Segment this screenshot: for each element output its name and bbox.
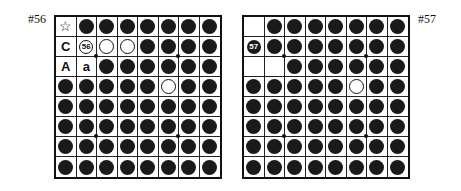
black-disc <box>390 19 405 34</box>
board-cell <box>56 157 77 177</box>
board-cell <box>265 77 286 97</box>
board-cell <box>285 137 306 157</box>
black-disc <box>349 39 364 54</box>
board-cell <box>285 77 306 97</box>
board-cell <box>200 117 221 137</box>
black-disc <box>308 139 323 154</box>
black-disc <box>79 119 94 134</box>
black-disc <box>390 160 405 175</box>
black-disc <box>120 99 135 114</box>
board-cell <box>77 17 98 37</box>
black-disc <box>328 19 343 34</box>
board-cell <box>388 37 409 57</box>
board-cell <box>138 37 159 57</box>
board-cell <box>326 137 347 157</box>
black-disc <box>202 160 217 175</box>
black-disc <box>349 19 364 34</box>
board-cell <box>265 97 286 117</box>
black-disc <box>369 99 384 114</box>
black-disc <box>99 119 114 134</box>
board-cell <box>306 137 327 157</box>
board-cell <box>367 117 388 137</box>
black-disc <box>308 59 323 74</box>
board-cell <box>326 117 347 137</box>
board-cell <box>244 77 265 97</box>
move-number-disc: 57 <box>247 40 261 54</box>
black-disc <box>58 79 73 94</box>
board-cell <box>159 77 180 97</box>
black-disc <box>181 59 196 74</box>
board-cell <box>56 137 77 157</box>
black-disc <box>181 139 196 154</box>
board-cell <box>347 137 368 157</box>
black-disc <box>369 59 384 74</box>
board-cell <box>77 77 98 97</box>
black-disc <box>161 39 176 54</box>
board-cell <box>326 157 347 177</box>
black-disc <box>246 99 261 114</box>
black-disc <box>369 160 384 175</box>
board-cell <box>97 157 118 177</box>
black-disc <box>202 99 217 114</box>
black-disc <box>369 19 384 34</box>
board-cell <box>138 97 159 117</box>
board-cell <box>388 137 409 157</box>
board-cell <box>200 37 221 57</box>
black-disc <box>120 79 135 94</box>
grid-dot <box>176 54 180 58</box>
board-cell <box>347 97 368 117</box>
board-cell <box>179 37 200 57</box>
board-cell <box>200 157 221 177</box>
black-disc <box>161 160 176 175</box>
board-cell <box>388 157 409 177</box>
black-disc <box>79 79 94 94</box>
board-cell <box>138 117 159 137</box>
board-cell <box>388 97 409 117</box>
board-cell <box>347 77 368 97</box>
white-disc <box>349 79 364 94</box>
board-cell <box>347 57 368 77</box>
black-disc <box>161 19 176 34</box>
board-56: ☆C56Aa <box>54 15 222 179</box>
black-disc <box>202 19 217 34</box>
board-cell <box>118 157 139 177</box>
board-cell <box>118 17 139 37</box>
black-disc <box>349 99 364 114</box>
black-disc <box>287 39 302 54</box>
black-disc <box>328 59 343 74</box>
star-icon: ☆ <box>59 20 72 34</box>
board-cell <box>179 137 200 157</box>
black-disc <box>99 99 114 114</box>
board-cell <box>285 57 306 77</box>
board-cell <box>306 77 327 97</box>
black-disc <box>390 99 405 114</box>
board-cell <box>326 17 347 37</box>
black-disc <box>267 160 282 175</box>
black-disc <box>181 119 196 134</box>
board-cell <box>179 17 200 37</box>
black-disc <box>328 119 343 134</box>
black-disc <box>99 139 114 154</box>
black-disc <box>369 39 384 54</box>
board-cell <box>179 57 200 77</box>
black-disc <box>246 119 261 134</box>
board-cell <box>388 77 409 97</box>
black-disc <box>140 59 155 74</box>
board-cell <box>367 157 388 177</box>
black-disc <box>202 79 217 94</box>
black-disc <box>58 139 73 154</box>
board-cell <box>138 17 159 37</box>
black-disc <box>202 139 217 154</box>
black-disc <box>79 19 94 34</box>
black-disc <box>140 39 155 54</box>
black-disc <box>99 160 114 175</box>
board-cell <box>244 117 265 137</box>
board-cell <box>159 57 180 77</box>
board-cell <box>367 57 388 77</box>
board-cell <box>97 37 118 57</box>
board-cell <box>118 77 139 97</box>
board-cell <box>179 117 200 137</box>
black-disc <box>140 79 155 94</box>
board-cell <box>388 17 409 37</box>
black-disc <box>79 139 94 154</box>
